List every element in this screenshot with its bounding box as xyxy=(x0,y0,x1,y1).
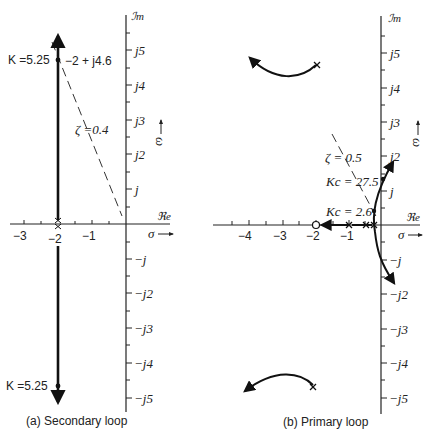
tick-label: j5 xyxy=(133,43,146,58)
tick-label: −2 xyxy=(48,232,62,246)
locus-arc-lower xyxy=(245,374,313,391)
tick-label: −4 xyxy=(238,229,252,243)
tick-label: −2 xyxy=(306,229,320,243)
tick-label: j4 xyxy=(133,78,146,93)
zero-marker-icon xyxy=(313,222,320,229)
tick-label: j5 xyxy=(388,46,401,61)
tick-label: j xyxy=(388,184,394,199)
marked-point xyxy=(56,384,61,389)
root-locus-figure: −3 −2 −1 j5 j4 j3 xyxy=(0,0,430,435)
caption-secondary: (a) Secondary loop xyxy=(26,414,128,428)
tick-label: −1 xyxy=(82,229,96,243)
imag-ticks xyxy=(381,36,387,398)
sigma-label: σ xyxy=(398,227,405,242)
tick-label: −j2 xyxy=(134,286,153,301)
tick-label: j xyxy=(133,182,139,197)
imag-axis-label: ℐm xyxy=(388,12,401,24)
marked-point xyxy=(56,58,61,63)
sigma-label: σ xyxy=(148,226,155,241)
zeta-label: ζ =0.4 xyxy=(75,122,109,137)
tick-label: j2 xyxy=(133,147,146,162)
panel-secondary-loop: −3 −2 −1 j5 j4 j3 xyxy=(6,10,173,428)
imag-ticks xyxy=(126,33,132,398)
tick-label: j3 xyxy=(133,113,146,128)
marked-point-kc-high xyxy=(381,177,385,181)
omega-label: ω xyxy=(153,137,168,146)
tick-label: −1 xyxy=(340,229,354,243)
real-axis-label: ℜe xyxy=(157,210,171,222)
tick-label: j2 xyxy=(388,149,401,164)
tick-label: −j xyxy=(134,252,147,267)
tick-label: −j2 xyxy=(389,287,408,302)
point-label: −2 + j4.6 xyxy=(65,54,112,68)
tick-label: −j4 xyxy=(389,356,408,371)
k-top-label: K =5.25 xyxy=(8,53,50,67)
tick-label: −j4 xyxy=(134,356,153,371)
tick-label: −j3 xyxy=(134,321,153,336)
tick-label: j3 xyxy=(388,115,401,130)
tick-label: −j5 xyxy=(134,391,153,406)
tick-label: −3 xyxy=(13,229,27,243)
marked-point-kc-low xyxy=(372,209,376,213)
zeta-label: ζ = 0.5 xyxy=(325,150,362,165)
kc-high-label: Kc = 27.5 xyxy=(325,174,379,189)
imag-axis-label: ℐm xyxy=(131,10,144,22)
tick-label: −3 xyxy=(273,229,287,243)
tick-label: −j5 xyxy=(389,391,408,406)
caption-primary: (b) Primary loop xyxy=(283,415,369,429)
tick-label: j4 xyxy=(388,81,401,96)
kc-low-label: Kc = 2.6 xyxy=(325,204,372,219)
real-axis-label: ℜe xyxy=(406,211,420,223)
tick-label: −j3 xyxy=(389,322,408,337)
k-bottom-label: K =5.25 xyxy=(6,379,48,393)
locus-arc-upper xyxy=(250,58,316,76)
tick-label: −j xyxy=(389,253,402,268)
omega-label: ω xyxy=(410,138,425,147)
panel-primary-loop: −4 −3 −2 −1 j5 j4 j xyxy=(213,12,425,429)
